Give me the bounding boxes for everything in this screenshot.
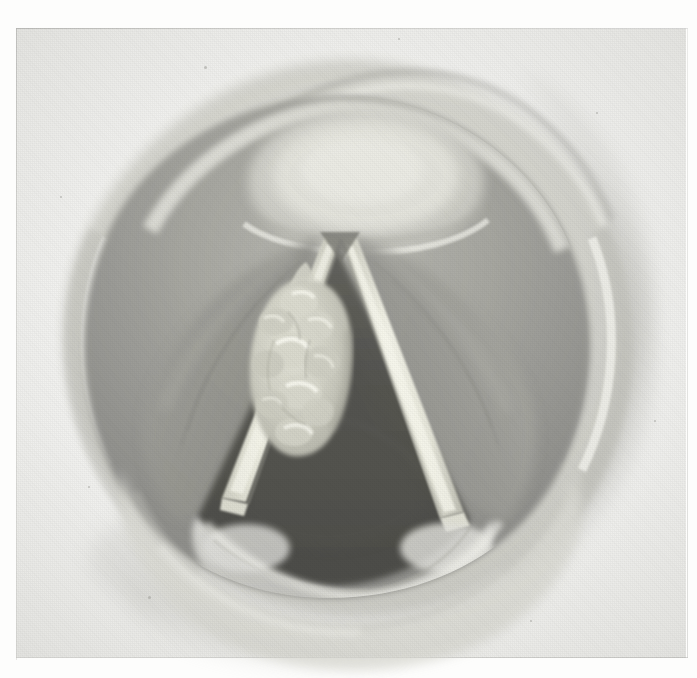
laryngoscopic-figure <box>0 0 697 678</box>
figure-svg <box>0 0 697 678</box>
print-speck <box>398 38 400 40</box>
print-speck <box>88 486 90 488</box>
illustration-plate: Epiglottis Left vocal cord Right vocal c… <box>0 0 697 678</box>
print-speck <box>204 66 207 69</box>
print-speck <box>530 620 532 622</box>
print-speck <box>148 596 151 599</box>
print-speck <box>596 112 598 114</box>
print-speck <box>654 420 656 422</box>
print-speck <box>60 196 62 198</box>
